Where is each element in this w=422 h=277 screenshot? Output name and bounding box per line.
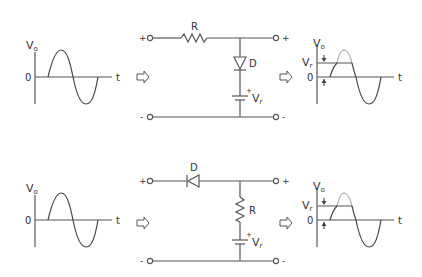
input-waveform-graph: Vo 0 t [25, 182, 120, 247]
battery-label: Vr [252, 92, 263, 106]
vr-indicator-arrows [322, 198, 327, 229]
output-minus-terminal [273, 114, 278, 119]
input-minus-terminal [147, 114, 152, 119]
y-axis-label: Vo [313, 37, 325, 51]
output-plus-label: + [282, 33, 290, 43]
arrow-right-icon [137, 71, 149, 83]
output-minus-terminal [273, 258, 278, 263]
battery-icon [232, 240, 248, 244]
resistor-icon [236, 197, 244, 222]
arrow-right-icon [280, 71, 292, 83]
y-axis-label: Vo [313, 180, 325, 194]
series-clipper-circuit: + D + R + Vr - [139, 162, 290, 266]
zero-label: 0 [25, 215, 31, 226]
resistor-icon [181, 34, 207, 42]
output-minus-label: - [282, 256, 285, 266]
panel-shunt-clipper: Vo 0 t + R + D [25, 21, 402, 122]
clipped-peak [337, 50, 352, 63]
y-axis-label: Vo [26, 182, 38, 196]
battery-icon [232, 96, 248, 100]
y-axis-label: Vo [26, 39, 38, 53]
diode-icon [187, 175, 199, 187]
time-label: t [116, 215, 120, 226]
clipped-sine-wave [330, 63, 381, 104]
time-label: t [398, 72, 402, 83]
shunt-clipper-circuit: + R + D + Vr - [139, 21, 290, 122]
output-waveform-graph: Vo Vr 0 t [302, 180, 402, 247]
output-plus-terminal [273, 35, 278, 40]
diode-icon [234, 57, 246, 70]
clipped-sine-wave [330, 206, 381, 247]
time-label: t [116, 72, 120, 83]
input-plus-terminal [147, 35, 152, 40]
battery-label: Vr [252, 236, 263, 250]
resistor-label: R [249, 205, 256, 216]
input-minus-label: - [140, 112, 143, 122]
input-minus-label: - [140, 256, 143, 266]
time-label: t [398, 215, 402, 226]
vr-indicator-arrows [322, 55, 327, 86]
clipper-diagram: Vo 0 t + R + D [0, 0, 422, 277]
zero-label: 0 [307, 72, 313, 83]
clipped-peak [337, 193, 352, 206]
panel-series-clipper: Vo 0 t + D + R [25, 162, 402, 266]
resistor-label: R [191, 21, 198, 32]
input-plus-label: + [139, 176, 147, 186]
vr-label: Vr [302, 56, 313, 70]
input-minus-terminal [147, 258, 152, 263]
input-waveform-graph: Vo 0 t [25, 39, 120, 104]
zero-label: 0 [25, 72, 31, 83]
zero-label: 0 [307, 215, 313, 226]
arrow-right-icon [280, 217, 292, 229]
output-waveform-graph: Vo Vr 0 t [302, 37, 402, 104]
vr-label: Vr [302, 199, 313, 213]
output-plus-terminal [273, 178, 278, 183]
input-plus-label: + [139, 33, 147, 43]
output-plus-label: + [282, 176, 290, 186]
output-minus-label: - [282, 112, 285, 122]
input-plus-terminal [147, 178, 152, 183]
diode-label: D [190, 162, 198, 173]
diode-label: D [249, 58, 257, 69]
arrow-right-icon [137, 217, 149, 229]
